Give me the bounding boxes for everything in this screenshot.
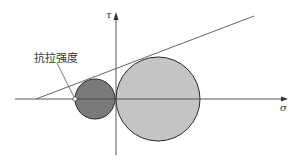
- tau-axis-label: τ: [106, 9, 112, 20]
- tensile-strength-point: [73, 97, 77, 101]
- tensile-strength-leader-line: [57, 63, 74, 97]
- tensile-strength-label: 抗拉强度: [34, 49, 78, 65]
- sigma-axis-arrow-icon: [281, 97, 288, 102]
- sigma-axis-label: σ: [280, 102, 287, 113]
- tau-axis-arrow-icon: [114, 12, 119, 20]
- mohr-circle-diagram: [0, 0, 302, 160]
